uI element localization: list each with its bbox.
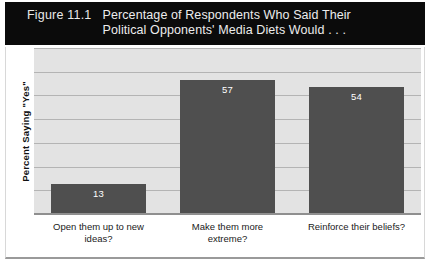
x-axis-tick-label-line: extreme?	[163, 233, 292, 245]
bar-slot: 57	[163, 49, 292, 215]
figure-number: Figure 11.1	[27, 8, 92, 23]
bar[interactable]: 57	[180, 80, 274, 215]
x-axis-tick-label-line: Open them up to new	[34, 221, 163, 233]
x-axis-tick-label-line: Make them more	[163, 221, 292, 233]
bar-value-label: 13	[51, 188, 145, 199]
y-axis-label: Percent Saying "Yes"	[16, 47, 34, 215]
bar[interactable]: 54	[309, 87, 403, 215]
bar[interactable]: 13	[51, 184, 145, 215]
x-axis-baseline	[34, 213, 421, 215]
figure-title-line-2: Political Opponents' Media Diets Would .…	[103, 23, 351, 38]
x-axis-tick-label-line: ideas?	[34, 233, 163, 245]
x-axis-tick-label: Make them moreextreme?	[163, 219, 292, 253]
figure-header-banner: Figure 11.1 Percentage of Respondents Wh…	[5, 2, 425, 45]
bar-value-label: 57	[180, 84, 274, 95]
x-axis-labels: Open them up to newideas?Make them moree…	[34, 219, 421, 253]
bars-layer: 135754	[34, 49, 421, 215]
bar-slot: 54	[292, 49, 421, 215]
plot-area: 135754	[34, 49, 421, 215]
y-axis-label-text: Percent Saying "Yes"	[20, 81, 31, 182]
bar-slot: 13	[34, 49, 163, 215]
page-title: Percentage of Respondents Who Said Their…	[103, 8, 351, 38]
x-axis-tick-label: Open them up to newideas?	[34, 219, 163, 253]
chart-frame: Percent Saying "Yes" 135754 Open them up…	[5, 47, 425, 259]
bar-value-label: 54	[309, 91, 403, 102]
x-axis-tick-label-line: Reinforce their beliefs?	[292, 221, 421, 233]
figure-title-line-1: Percentage of Respondents Who Said Their	[103, 8, 351, 23]
figure-container: Figure 11.1 Percentage of Respondents Wh…	[0, 0, 430, 263]
figure-header-inner: Figure 11.1 Percentage of Respondents Wh…	[27, 8, 419, 38]
x-axis-tick-label: Reinforce their beliefs?	[292, 219, 421, 253]
